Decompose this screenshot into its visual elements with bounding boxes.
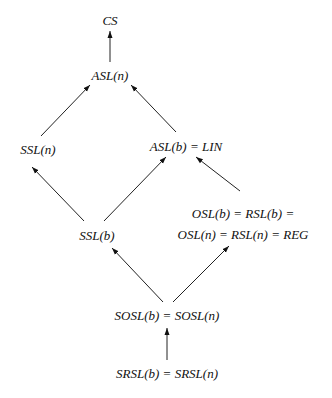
edge-ssl_b-to-ssl_n [32, 167, 84, 221]
node-osl-reg: OSL(b) = RSL(b) = OSL(n) = RSL(n) = REG [178, 203, 309, 245]
edge-sosl-to-osl [173, 246, 229, 302]
node-srsl: SRSL(b) = SRSL(n) [116, 363, 218, 384]
node-osl-line2: OSL(n) = RSL(n) = REG [178, 224, 309, 245]
node-cs: CS [102, 10, 117, 31]
node-sosl: SOSL(b) = SOSL(n) [115, 305, 220, 326]
node-ssl-b: SSL(b) [79, 225, 114, 246]
edges-layer [0, 0, 332, 398]
node-osl-line1: OSL(b) = RSL(b) = [178, 203, 309, 224]
node-asl-b-lin: ASL(b) = LIN [150, 136, 222, 157]
edge-osl-to-asl_b [196, 157, 240, 191]
edge-ssl_n-to-asl_n [41, 85, 90, 136]
edge-asl_b-to-asl_n [131, 85, 176, 132]
edge-ssl_b-to-asl_b [104, 157, 166, 221]
node-asl-n: ASL(n) [92, 65, 129, 86]
edge-sosl-to-ssl_b [112, 248, 163, 302]
node-ssl-n: SSL(n) [20, 139, 55, 160]
